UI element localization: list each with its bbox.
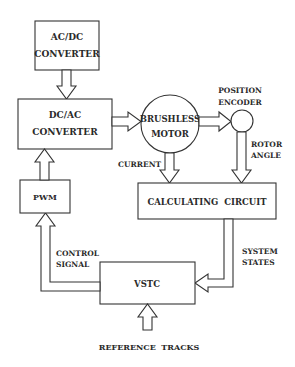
pwm-label: PWM xyxy=(33,192,57,202)
calc-label: CALCULATING CIRCUIT xyxy=(147,197,267,207)
pwm-block: PWM xyxy=(20,180,70,213)
motor-label-2: MOTOR xyxy=(151,129,190,139)
current-label: CURRENT xyxy=(118,160,162,169)
vstc-label: VSTC xyxy=(133,279,160,289)
motor-label-1: BRUSHLESS xyxy=(140,114,200,124)
arrow-acdc-to-dcac xyxy=(57,70,76,99)
control-signal-label-2: SIGNAL xyxy=(56,260,90,269)
encoder-label-2: ENCODER xyxy=(218,98,262,107)
arrow-motor-to-encoder xyxy=(199,112,231,131)
system-states-label-2: STATES xyxy=(242,258,275,267)
encoder-label-1: POSITION xyxy=(218,86,262,95)
brushless-motor-block: BRUSHLESS MOTOR xyxy=(140,95,200,153)
dc-ac-label-1: DC/AC xyxy=(49,110,81,120)
vstc-block: VSTC xyxy=(100,262,195,304)
rotor-angle-label-1: ROTOR xyxy=(251,140,283,149)
arrow-pwm-to-dcac xyxy=(35,149,54,180)
ac-dc-converter-block: AC/DC CONVERTER xyxy=(34,21,100,70)
dc-ac-label-2: CONVERTER xyxy=(32,127,98,137)
ac-dc-label-2: CONVERTER xyxy=(34,49,100,59)
reference-tracks-label: REFERENCE TRACKS xyxy=(99,342,200,352)
arrow-reference-to-vstc xyxy=(138,304,157,330)
arrow-calc-to-vstc xyxy=(195,219,233,292)
dc-ac-converter-block: DC/AC CONVERTER xyxy=(18,99,112,149)
arrow-motor-to-calc xyxy=(160,153,179,183)
control-signal-label-1: CONTROL xyxy=(56,249,100,258)
block-diagram: AC/DC CONVERTER DC/AC CONVERTER BRUSHLES… xyxy=(0,0,295,367)
rotor-angle-label-2: ANGLE xyxy=(250,151,281,160)
ac-dc-label-1: AC/DC xyxy=(50,32,83,42)
calculating-circuit-block: CALCULATING CIRCUIT xyxy=(138,183,276,219)
system-states-label-1: SYSTEM xyxy=(242,247,278,256)
arrow-encoder-to-calc xyxy=(232,132,251,183)
arrow-dcac-to-motor xyxy=(112,112,141,131)
